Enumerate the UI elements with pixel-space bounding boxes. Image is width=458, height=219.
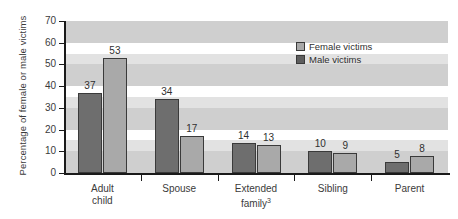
bar-male xyxy=(180,136,204,173)
bar-male xyxy=(103,58,127,173)
x-tick-mark xyxy=(294,175,295,181)
x-tick-mark xyxy=(141,175,142,181)
legend-swatch-female-icon xyxy=(296,42,305,51)
bar-female xyxy=(385,162,409,173)
bar-chart-figure: Percentage of female or male victims 375… xyxy=(0,0,458,219)
bar-male xyxy=(257,145,281,173)
bar-value-label: 37 xyxy=(74,80,106,91)
y-tick-mark xyxy=(59,21,64,22)
bar-value-label: 8 xyxy=(406,143,438,154)
bar-value-label: 17 xyxy=(176,123,208,134)
x-category-label: Extendedfamily3 xyxy=(218,183,295,210)
x-category-label-line: child xyxy=(64,195,141,207)
legend-item-female: Female victims xyxy=(296,41,372,52)
x-category-label-line: Sibling xyxy=(294,183,371,195)
y-tick-mark xyxy=(59,64,64,65)
bar-male xyxy=(333,153,357,173)
footnote-marker: 3 xyxy=(267,197,271,204)
y-tick-label: 60 xyxy=(18,37,56,48)
y-tick-label: 0 xyxy=(18,167,56,178)
y-axis-line xyxy=(64,21,66,174)
bar-female xyxy=(155,99,179,173)
chart-legend: Female victims Male victims xyxy=(296,41,372,67)
bar-female xyxy=(308,151,332,173)
y-tick-label: 30 xyxy=(18,102,56,113)
y-tick-label: 70 xyxy=(18,15,56,26)
bar-value-label: 13 xyxy=(253,132,285,143)
legend-label-male: Male victims xyxy=(309,54,361,65)
y-tick-mark xyxy=(59,108,64,109)
y-tick-label: 40 xyxy=(18,80,56,91)
x-category-label: Parent xyxy=(371,183,448,195)
x-category-label: Sibling xyxy=(294,183,371,195)
bar-female xyxy=(78,93,102,173)
x-axis-line xyxy=(64,173,450,175)
y-tick-mark xyxy=(59,173,64,174)
bar-value-label: 34 xyxy=(151,86,183,97)
bar-value-label: 9 xyxy=(329,140,361,151)
y-tick-mark xyxy=(59,130,64,131)
y-axis-title: Percentage of female or male victims xyxy=(17,6,28,186)
legend-label-female: Female victims xyxy=(309,41,372,52)
bar-male xyxy=(410,156,434,173)
legend-item-male: Male victims xyxy=(296,54,372,65)
legend-swatch-male-icon xyxy=(296,55,305,64)
bar-value-label: 53 xyxy=(99,45,131,56)
x-category-label-line: Spouse xyxy=(141,183,218,195)
x-category-label: Spouse xyxy=(141,183,218,195)
bars-container: 37533417141310958 xyxy=(64,21,448,173)
x-category-label-line: Extended xyxy=(218,183,295,195)
x-tick-mark xyxy=(218,175,219,181)
y-tick-mark xyxy=(59,151,64,152)
bar-female xyxy=(232,143,256,173)
y-tick-mark xyxy=(59,43,64,44)
x-category-label-line: Parent xyxy=(371,183,448,195)
y-tick-mark xyxy=(59,86,64,87)
y-tick-label: 10 xyxy=(18,145,56,156)
x-category-label: Adultchild xyxy=(64,183,141,207)
x-category-label-line: Adult xyxy=(64,183,141,195)
y-tick-label: 50 xyxy=(18,58,56,69)
x-category-label-line: family3 xyxy=(218,195,295,210)
y-tick-label: 20 xyxy=(18,124,56,135)
x-tick-mark xyxy=(371,175,372,181)
plot-area: 37533417141310958 xyxy=(64,21,448,173)
